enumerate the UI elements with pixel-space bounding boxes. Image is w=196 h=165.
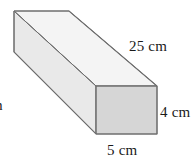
prism-drawing	[0, 0, 196, 165]
length-dimension-label: 25 cm	[129, 39, 167, 54]
depth-dimension-label-clipped: m	[0, 98, 3, 113]
height-dimension-label: 4 cm	[160, 105, 190, 120]
width-dimension-label: 5 cm	[107, 143, 137, 158]
rectangular-prism-figure: 25 cm 4 cm 5 cm m	[0, 0, 196, 165]
prism-front-face	[96, 86, 157, 134]
